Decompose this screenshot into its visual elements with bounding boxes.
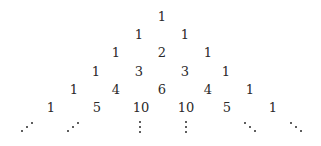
triangle-cell: 10 <box>178 101 195 114</box>
triangle-cell: 1 <box>204 46 212 59</box>
triangle-cell: 1 <box>47 101 55 114</box>
down-diagonal-ellipsis-icon <box>289 120 303 134</box>
triangle-cell: 1 <box>246 83 254 96</box>
triangle-cell: 4 <box>204 83 212 96</box>
triangle-cell: 1 <box>269 101 277 114</box>
triangle-cell: 1 <box>158 10 166 23</box>
triangle-cell: 4 <box>112 83 120 96</box>
pascal-triangle: 11112113311464115101051 <box>0 0 321 146</box>
triangle-cell: 1 <box>181 28 189 41</box>
triangle-cell: 3 <box>135 65 143 78</box>
triangle-cell: 1 <box>112 46 120 59</box>
triangle-cell: 5 <box>223 101 231 114</box>
triangle-cell: 1 <box>92 65 100 78</box>
triangle-cell: 10 <box>133 101 150 114</box>
triangle-cell: 2 <box>158 46 166 59</box>
triangle-cell: 3 <box>181 65 189 78</box>
vertical-ellipsis-icon <box>133 120 147 134</box>
vertical-ellipsis-icon <box>179 120 193 134</box>
up-diagonal-ellipsis-icon <box>20 120 34 134</box>
triangle-cell: 5 <box>93 101 101 114</box>
triangle-cell: 1 <box>135 28 143 41</box>
triangle-cell: 1 <box>222 65 230 78</box>
triangle-cell: 6 <box>158 83 166 96</box>
triangle-cell: 1 <box>70 83 78 96</box>
up-diagonal-ellipsis-icon <box>66 120 80 134</box>
down-diagonal-ellipsis-icon <box>243 120 257 134</box>
